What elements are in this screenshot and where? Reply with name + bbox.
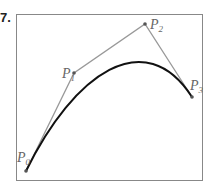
bezier-curve bbox=[26, 62, 192, 171]
label-p1: P1 bbox=[61, 66, 75, 83]
label-p3: P3 bbox=[189, 78, 204, 95]
point-p3 bbox=[190, 95, 194, 99]
bezier-diagram: P0 P1 P2 P3 bbox=[0, 0, 218, 182]
point-p2 bbox=[143, 22, 147, 26]
label-p0: P0 bbox=[16, 150, 31, 167]
point-p0 bbox=[24, 169, 28, 173]
diagram-frame bbox=[17, 15, 203, 181]
label-p2: P2 bbox=[149, 17, 164, 34]
control-polygon bbox=[26, 24, 192, 171]
